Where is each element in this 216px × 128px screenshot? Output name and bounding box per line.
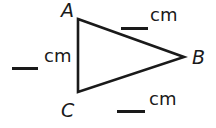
triangle-drawing [0,0,216,128]
unit-label-side-ab: cm [150,6,177,24]
vertex-label-a: A [61,1,74,20]
vertex-label-b: B [192,48,205,67]
unit-label-side-ac: cm [44,47,71,65]
triangle-figure: A B C cm cm cm [0,0,216,128]
unit-label-side-cb: cm [149,90,176,108]
answer-blank-side-ab[interactable] [121,27,148,30]
answer-blank-side-cb[interactable] [117,110,145,113]
answer-blank-side-ac[interactable] [12,67,38,70]
vertex-label-c: C [61,101,74,120]
